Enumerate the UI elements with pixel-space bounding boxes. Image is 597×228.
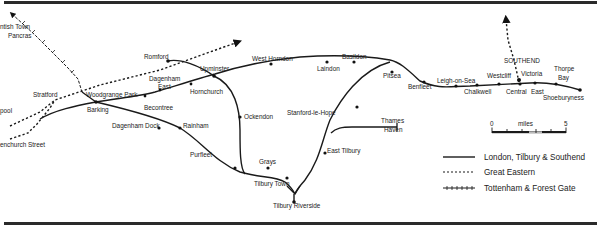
label-upminster: Upminster [200, 65, 230, 73]
scale-unit-label: miles [518, 120, 533, 127]
label-romford: Romford [144, 53, 169, 60]
legend-label-lts: London, Tilbury & Southend [484, 153, 585, 162]
label-thorpe-bay-1: Thorpe [554, 65, 575, 73]
label-dagenham-east-2: East [158, 83, 171, 90]
label-leigh-on-sea: Leigh-on-Sea [437, 77, 476, 85]
label-tilbury-town: Tilbury Town [254, 180, 290, 188]
label-southend: SOUTHEND [504, 57, 540, 64]
scale-end-label: 5 [564, 120, 568, 127]
label-benfleet: Benfleet [408, 83, 432, 90]
label-hornchurch: Hornchurch [190, 88, 223, 95]
label-rainham: Rainham [183, 122, 209, 129]
legend-item-lts: London, Tilbury & Southend [443, 153, 585, 162]
label-woodgrange-park: Woodgrange Park [86, 91, 138, 99]
label-central: Central [506, 88, 527, 95]
label-stanford-le-hope: Stanford-le-Hope [287, 109, 336, 117]
label-east-tilbury: East Tilbury [327, 147, 361, 155]
label-laindon: Laindon [317, 65, 340, 72]
legend-label-tottenham-forest-gate: Tottenham & Forest Gate [484, 184, 576, 193]
label-ockendon: Ockendon [244, 113, 274, 120]
tilbury-triangle [287, 186, 300, 194]
legend-item-tottenham-forest-gate: Tottenham & Forest Gate [443, 184, 576, 193]
label-dagenham-dock: Dagenham Dock [112, 122, 160, 130]
label-pitsea: Pitsea [383, 72, 401, 79]
legend-item-great-eastern: Great Eastern [443, 168, 535, 177]
label-dagenham-east-1: Dagenham [149, 75, 180, 83]
label-westcliff: Westcliff [487, 72, 511, 79]
label-fenchurch-street: enchurch Street [0, 141, 45, 148]
label-becontree: Becontree [144, 104, 174, 111]
great-eastern-main-line [10, 42, 238, 126]
legend: London, Tilbury & Southend Great Eastern… [443, 153, 585, 193]
label-stratford: Stratford [33, 91, 58, 98]
label-tilbury-riverside: Tilbury Riverside [273, 202, 321, 210]
label-barking: Barking [87, 106, 109, 114]
scale-bar: 0 miles 5 [490, 120, 568, 133]
label-kentish-town: ntish Town [0, 23, 31, 30]
great-eastern-fenchurch-branch [10, 100, 55, 139]
label-victoria: Victoria [521, 70, 543, 77]
label-purfleet: Purfleet [190, 151, 212, 158]
station-labels: ntish Town Pancras pool enchurch Street … [0, 23, 584, 210]
label-thames-haven-1: Thames [381, 117, 404, 124]
label-thorpe-bay-2: Bay [558, 74, 570, 82]
label-basildon: Basildon [342, 53, 367, 60]
label-st-pancras: Pancras [8, 32, 31, 39]
legend-label-great-eastern: Great Eastern [484, 168, 535, 177]
label-chalkwell: Chalkwell [464, 88, 491, 95]
railway-map: ntish Town Pancras pool enchurch Street … [0, 0, 597, 228]
label-liverpool-street: pool [0, 107, 12, 115]
label-shoeburyness: Shoeburyness [543, 94, 584, 102]
label-west-horndon: West Horndon [252, 55, 293, 62]
legend-crossed-line-icon [443, 186, 475, 190]
label-grays: Grays [259, 158, 276, 166]
scale-start-label: 0 [490, 120, 494, 127]
label-thames-haven-2: Haven [384, 126, 403, 133]
